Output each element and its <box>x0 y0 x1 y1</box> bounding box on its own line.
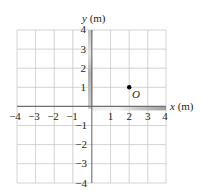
coordinate-grid: y (m) x (m) −4 −3 −2 −1 1 2 3 4 4 3 2 1 … <box>0 0 202 192</box>
axes <box>17 30 166 183</box>
y-tick-label: −1 <box>75 119 87 131</box>
y-tick-label: −2 <box>75 138 87 150</box>
y-tick-label: 3 <box>81 43 87 55</box>
x-tick-label: −4 <box>9 110 21 122</box>
x-tick-label: 2 <box>126 110 132 122</box>
y-tick-label: 2 <box>81 62 87 74</box>
y-tick-label: −4 <box>75 177 87 189</box>
y-tick-label: −3 <box>75 157 87 169</box>
y-tick-label: 1 <box>81 81 87 93</box>
x-tick-labels: −4 −3 −2 −1 1 2 3 4 <box>9 110 168 122</box>
x-tick-label: 4 <box>162 110 168 122</box>
y-tick-label: 4 <box>81 23 87 35</box>
x-tick-label: 1 <box>108 110 114 122</box>
x-tick-label: 3 <box>145 110 151 122</box>
point-o-label: O <box>132 88 140 100</box>
x-tick-label: −2 <box>47 110 59 122</box>
x-axis-label: x (m) <box>169 100 194 113</box>
point-o-marker <box>127 85 131 89</box>
x-tick-label: −3 <box>28 110 40 122</box>
